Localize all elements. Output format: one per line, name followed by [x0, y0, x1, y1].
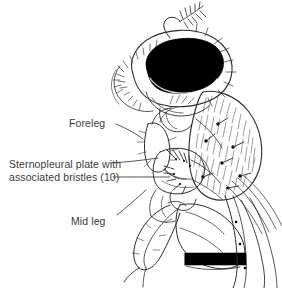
foreleg-tarsus — [165, 169, 186, 179]
label-sternopleural: Sternopleural plate withassociated brist… — [9, 158, 121, 183]
compound-eye — [146, 38, 223, 93]
hindleg-tibia — [241, 200, 265, 288]
label-foreleg: Foreleg — [69, 117, 105, 130]
midleg-femur-inner — [144, 209, 178, 268]
label-sternopleural-line1: Sternopleural plate with — [9, 158, 121, 170]
feathered-arista — [179, 2, 206, 28]
hindleg-tarsus — [250, 198, 277, 288]
pleural-crease-1 — [164, 170, 193, 179]
ventral-edge — [150, 190, 156, 216]
antenna-base — [164, 17, 180, 38]
leader-midleg — [117, 190, 146, 215]
fly-illustration — [0, 0, 282, 288]
pleural-crease-2 — [162, 181, 194, 188]
hindleg-group — [225, 176, 282, 288]
midleg-tarsus — [143, 268, 146, 287]
abdomen-segment-2 — [180, 228, 222, 252]
hindleg-femur-inner — [233, 196, 246, 288]
label-midleg: Mid leg — [71, 215, 106, 228]
leader-foreleg — [116, 124, 143, 139]
foreleg-femur — [144, 123, 170, 172]
midleg-femur — [134, 205, 180, 270]
midleg-trochanter — [168, 201, 186, 206]
fly-diagram-figure: Foreleg Sternopleural plate withassociat… — [0, 0, 282, 288]
foreleg-joint-hairs — [170, 95, 194, 104]
hindleg-femur — [225, 196, 237, 288]
ventral-detail — [150, 190, 175, 222]
scutum-bristles — [201, 118, 251, 190]
head-group — [111, 2, 236, 132]
abdomen-segment-1 — [186, 212, 224, 234]
label-sternopleural-line2: associated bristles (10) — [9, 171, 119, 183]
foreleg-bristles — [137, 131, 178, 167]
midleg-tibia — [124, 268, 139, 282]
scutum-hatching — [194, 96, 255, 197]
sternopleural-bristles — [164, 150, 191, 194]
